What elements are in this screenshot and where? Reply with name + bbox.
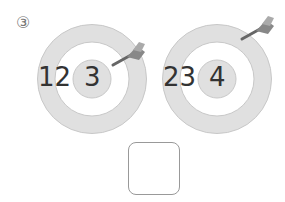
dart-icon (238, 12, 278, 44)
dart-icon (109, 38, 149, 70)
outer-numbers: 23 (163, 64, 196, 90)
outer-numbers: 12 (38, 64, 71, 90)
center-number: 4 (209, 64, 226, 90)
dartboard-left: 12 3 (37, 24, 147, 134)
center-number: 3 (84, 64, 101, 90)
dartboard-right: 23 4 (162, 24, 272, 134)
problem-number: ③ (16, 15, 30, 31)
answer-box[interactable] (128, 142, 180, 195)
